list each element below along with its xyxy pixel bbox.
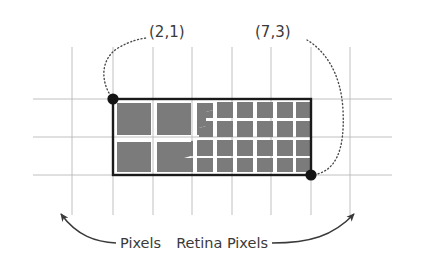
pixel-block — [117, 142, 151, 172]
retina-pixel-block — [237, 140, 253, 156]
retina-pixel-block — [257, 102, 273, 118]
retina-pixel-block — [217, 121, 233, 137]
retina-pixel-block — [277, 158, 293, 172]
pixel-block — [157, 103, 191, 135]
retina-pixels-caption: Retina Pixels — [176, 235, 268, 251]
retina-pixel-block — [257, 140, 273, 156]
retina-pixel-block — [296, 140, 312, 156]
retina-pixel-block — [296, 121, 312, 137]
pixel-block — [117, 103, 151, 135]
retina-pixel-block — [217, 102, 233, 118]
top-left-corner-point[interactable] — [107, 93, 118, 104]
retina-pixel-block — [217, 158, 233, 172]
pixels-vs-retina-pixels-diagram: (2,1) (7,3) Pixels Retina Pixels — [0, 0, 421, 263]
retina-pixel-block — [257, 121, 273, 137]
retina-pixel-block — [237, 102, 253, 118]
top-left-coordinate-label: (2,1) — [149, 23, 185, 41]
retina-pixel-block — [277, 140, 293, 156]
bottom-right-corner-point[interactable] — [305, 169, 316, 180]
retina-pixel-block — [237, 158, 253, 172]
retina-pixel-block — [296, 102, 312, 118]
retina-pixel-block — [217, 140, 233, 156]
retina-pixel-block — [197, 140, 213, 156]
retina-pixel-block — [277, 121, 293, 137]
pixels-caption: Pixels — [120, 235, 161, 251]
retina-pixel-block — [237, 121, 253, 137]
retina-pixel-block — [277, 102, 293, 118]
top-right-coordinate-label: (7,3) — [255, 23, 291, 41]
retina-pixel-block — [197, 158, 213, 172]
retina-pixel-block — [257, 158, 273, 172]
